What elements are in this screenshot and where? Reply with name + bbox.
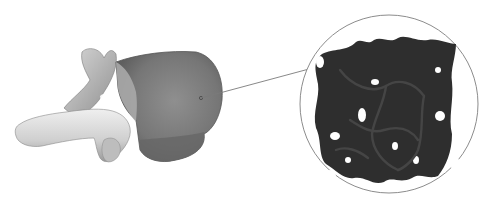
- trabecular-bone: [315, 37, 461, 183]
- diagram-canvas: [0, 0, 489, 205]
- magnified-view: [300, 15, 478, 193]
- vertebra: [15, 49, 222, 162]
- articular-facet: [102, 138, 120, 162]
- figure: [0, 0, 489, 205]
- vertebral-foramen: [100, 93, 118, 109]
